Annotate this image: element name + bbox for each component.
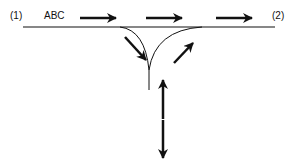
- label-start: (1): [10, 10, 22, 21]
- right-curve: [149, 27, 202, 70]
- label-name: ABC: [44, 10, 65, 21]
- junction-diagram: (1) ABC (2): [0, 0, 299, 164]
- label-end: (2): [272, 10, 284, 21]
- arrow-diagonal-down-icon: [125, 37, 146, 60]
- arrow-diagonal-up-icon: [174, 43, 193, 63]
